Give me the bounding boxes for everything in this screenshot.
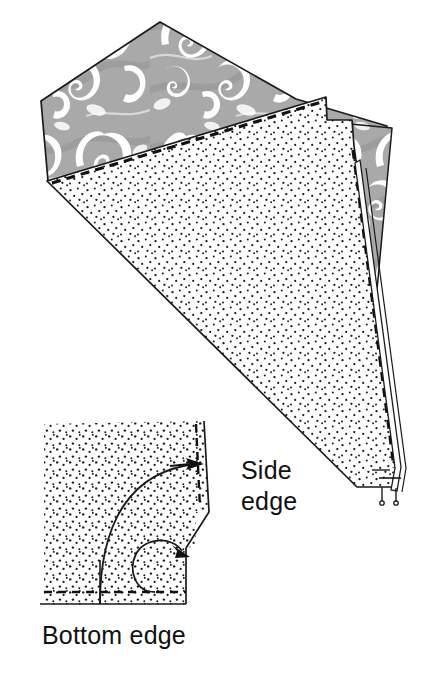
inset-fabric-fill [44,421,209,604]
figure-root: Side edge Bottom edge [0,0,435,673]
side-edge-label-line2: edge [241,487,297,515]
detail-inset [40,421,209,604]
side-edge-label-line1: Side [241,456,292,484]
sewing-diagram-svg: Side edge Bottom edge [0,0,435,673]
bottom-edge-label: Bottom edge [42,621,186,649]
